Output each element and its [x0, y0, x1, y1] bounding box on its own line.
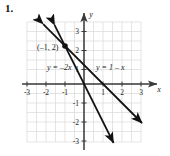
x-axis-label: x: [156, 85, 161, 94]
intersection-point-marker: [62, 43, 68, 49]
coordinate-plane: -3 -2 -1 1 2 3 3 2 1 -1 -2 -3 x y (–1, 2…: [0, 0, 170, 156]
x-tick-label-neg1: -1: [62, 88, 68, 97]
equation-label-y-neg-2x: y = –2x: [46, 63, 72, 72]
y-tick-label-neg2: -2: [73, 118, 79, 127]
x-tick-label-neg3: -3: [24, 88, 30, 97]
equation-label-y-1-minus-x: y = 1 – x: [95, 63, 125, 72]
y-tick-label-neg3: -3: [73, 137, 79, 146]
line-y-equals-1-minus-x: [43, 24, 142, 123]
y-axis-label: y: [88, 10, 93, 19]
intersection-point-label: (–1, 2): [37, 43, 59, 52]
y-tick-label-neg1: -1: [73, 99, 79, 108]
x-tick-label-neg2: -2: [43, 88, 49, 97]
x-tick-label-3: 3: [139, 88, 143, 97]
x-tick-label-1: 1: [101, 88, 105, 97]
graph-figure: 1.: [0, 0, 170, 156]
y-tick-label-2: 2: [75, 46, 79, 55]
y-tick-label-3: 3: [75, 27, 79, 36]
x-tick-label-2: 2: [120, 88, 124, 97]
